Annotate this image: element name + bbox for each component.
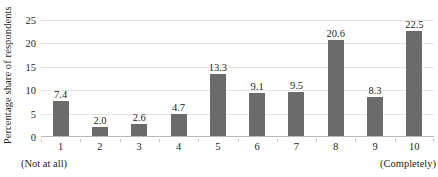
x-axis-tick-label: 1: [41, 139, 80, 155]
x-axis-tick-mark: [395, 139, 396, 142]
bar[interactable]: [53, 101, 69, 136]
bar-group[interactable]: 9.1: [238, 19, 277, 136]
x-axis-tick-mark: [433, 139, 434, 142]
bars: 7.42.02.64.713.39.19.520.68.322.5: [41, 20, 434, 137]
x-axis-tick-label: 2: [80, 139, 119, 155]
y-axis-tick-label: 25: [26, 15, 37, 26]
bar-value-label: 4.7: [172, 102, 185, 113]
x-axis-tick-label: 3: [120, 139, 159, 155]
bar-value-label: 8.3: [368, 85, 381, 96]
x-axis-tick-mark: [277, 139, 278, 142]
bar-value-label: 9.5: [290, 80, 303, 91]
x-axis-tick-mark: [41, 139, 42, 142]
x-axis-tick-mark: [316, 139, 317, 142]
bar-group[interactable]: 2.0: [80, 19, 119, 136]
y-axis-tick-label: 0: [31, 132, 36, 143]
x-axis-tick-mark: [355, 139, 356, 142]
bar[interactable]: [131, 124, 147, 136]
bar-group[interactable]: 9.5: [277, 19, 316, 136]
bar-value-label: 13.3: [209, 62, 227, 73]
y-axis-tick-label: 20: [26, 38, 37, 49]
y-axis-tick-label: 15: [26, 61, 37, 72]
bar-value-label: 2.6: [133, 112, 146, 123]
bar-group[interactable]: 4.7: [159, 19, 198, 136]
bar-value-label: 20.6: [327, 28, 345, 39]
x-axis-tick-label: 10: [395, 139, 434, 155]
y-axis-title-text: Percentage share of respondents: [3, 6, 14, 144]
bar-group[interactable]: 20.6: [316, 19, 355, 136]
x-axis-tick-label: 9: [355, 139, 394, 155]
bar-group[interactable]: 22.5: [395, 19, 434, 136]
bar[interactable]: [367, 97, 383, 136]
bar[interactable]: [288, 92, 304, 136]
bar-group[interactable]: 7.4: [41, 19, 80, 136]
x-axis-tick-label: 8: [316, 139, 355, 155]
bar-value-label: 22.5: [405, 19, 423, 30]
x-axis-tick-label: 5: [198, 139, 237, 155]
x-axis-tick-label: 7: [277, 139, 316, 155]
bar[interactable]: [210, 74, 226, 136]
x-axis-tick-label: 6: [238, 139, 277, 155]
bar[interactable]: [92, 127, 108, 136]
x-axis-tick-mark: [198, 139, 199, 142]
x-axis-endpoint-labels: (Not at all) (Completely): [0, 156, 438, 174]
bar-chart-figure: Percentage share of respondents 05101520…: [0, 0, 438, 177]
bar-value-label: 2.0: [93, 115, 106, 126]
bar-group[interactable]: 8.3: [355, 19, 394, 136]
x-axis-ticks: 12345678910: [41, 139, 434, 155]
y-axis-tick-label: 10: [26, 85, 37, 96]
bar[interactable]: [406, 31, 422, 136]
bar[interactable]: [328, 40, 344, 136]
bar[interactable]: [249, 93, 265, 136]
x-axis-endpoint-high-label: (Completely): [380, 156, 436, 172]
x-axis-tick-mark: [120, 139, 121, 142]
plot-area: 0510152025 7.42.02.64.713.39.19.520.68.3…: [41, 20, 434, 137]
x-axis-tick-mark: [80, 139, 81, 142]
bar-group[interactable]: 13.3: [198, 19, 237, 136]
x-axis-endpoint-low-label: (Not at all): [21, 156, 67, 172]
x-axis-tick-label: 4: [159, 139, 198, 155]
x-axis-tick-mark: [159, 139, 160, 142]
y-axis-tick-label: 5: [31, 108, 36, 119]
bar-group[interactable]: 2.6: [120, 19, 159, 136]
bar-value-label: 9.1: [251, 81, 264, 92]
bar-value-label: 7.4: [54, 89, 67, 100]
y-axis-title: Percentage share of respondents: [0, 0, 16, 150]
x-axis-tick-mark: [238, 139, 239, 142]
bar[interactable]: [171, 114, 187, 136]
